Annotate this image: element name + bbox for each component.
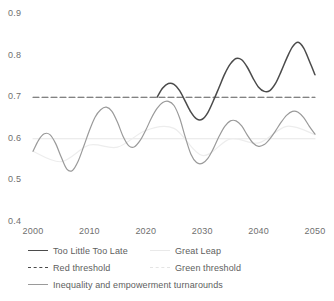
legend-item-green-threshold[interactable]: Green threshold <box>150 260 241 275</box>
series-line-too-little-too-late <box>157 42 315 120</box>
legend-row-1: Too Little Too Late Great Leap <box>0 243 334 258</box>
legend-swatch-line-icon <box>28 280 48 290</box>
legend-label: Great Leap <box>175 246 221 256</box>
series-line-inequality-and-empowerment-turnarounds <box>33 101 315 171</box>
legend-label: Green threshold <box>175 263 241 273</box>
legend-item-red-threshold[interactable]: Red threshold <box>28 260 110 275</box>
plot-svg <box>0 0 334 240</box>
legend-swatch-dashed-line-icon <box>150 263 170 273</box>
series-line-great-leap <box>33 126 315 162</box>
x-axis-tick-label: 2050 <box>295 226 334 236</box>
chart-legend: Too Little Too Late Great Leap Red thres… <box>0 241 334 301</box>
legend-row-2: Red threshold Green threshold <box>0 260 334 275</box>
y-axis-tick-label: 0.5 <box>8 174 21 184</box>
y-axis-tick-label: 0.9 <box>8 8 21 18</box>
x-axis-tick-label: 2040 <box>239 226 279 236</box>
x-axis-tick-label: 2010 <box>69 226 109 236</box>
y-axis-tick-label: 0.7 <box>8 91 21 101</box>
x-axis-tick-label: 2000 <box>13 226 53 236</box>
legend-swatch-line-icon <box>150 246 170 256</box>
x-axis-tick-label: 2020 <box>126 226 166 236</box>
legend-swatch-line-icon <box>28 246 48 256</box>
legend-label: Too Little Too Late <box>53 246 128 256</box>
legend-label: Red threshold <box>53 263 110 273</box>
y-axis-tick-label: 0.8 <box>8 50 21 60</box>
legend-row-3: Inequality and empowerment turnarounds <box>0 277 334 292</box>
x-axis-tick-label: 2030 <box>182 226 222 236</box>
plot-area <box>0 0 334 240</box>
legend-item-great-leap[interactable]: Great Leap <box>150 243 221 258</box>
legend-item-inequality-and-empowerment-turnarounds[interactable]: Inequality and empowerment turnarounds <box>28 277 223 292</box>
line-chart: 0.90.80.70.60.50.4 200020102020203020402… <box>0 0 334 301</box>
legend-label: Inequality and empowerment turnarounds <box>53 280 223 290</box>
legend-swatch-dashed-line-icon <box>28 263 48 273</box>
legend-item-too-little-too-late[interactable]: Too Little Too Late <box>28 243 128 258</box>
y-axis-tick-label: 0.4 <box>8 216 21 226</box>
y-axis-tick-label: 0.6 <box>8 133 21 143</box>
